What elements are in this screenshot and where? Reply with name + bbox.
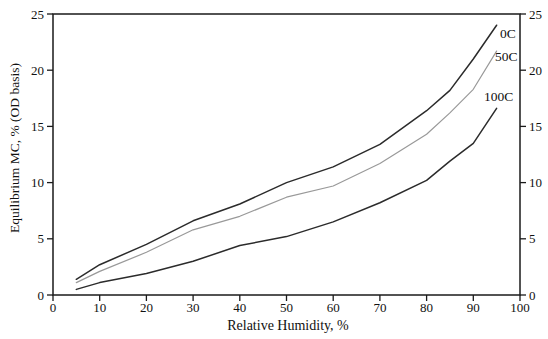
x-tick-label: 30 (187, 300, 200, 315)
x-tick-label: 70 (373, 300, 386, 315)
x-axis-title: Relative Humidity, % (227, 318, 349, 334)
y-tick-label-right: 5 (529, 231, 536, 246)
series-label-0c: 0C (500, 26, 516, 42)
emc-rh-chart: 0102030405060708090100005510101515202025… (0, 0, 548, 339)
series-label-50c: 50C (495, 49, 518, 65)
x-tick-label: 100 (510, 300, 530, 315)
x-tick-label: 20 (140, 300, 153, 315)
x-tick-label: 10 (93, 300, 106, 315)
curve-0c (76, 25, 496, 279)
y-tick-label-right: 0 (529, 288, 536, 303)
series-label-100c: 100C (484, 89, 513, 105)
x-tick-label: 90 (467, 300, 480, 315)
chart-canvas: 0102030405060708090100005510101515202025… (0, 0, 548, 339)
x-tick-label: 40 (233, 300, 246, 315)
y-tick-label-left: 5 (38, 231, 45, 246)
plot-border (53, 14, 520, 295)
y-tick-label-right: 10 (529, 175, 542, 190)
y-axis-title: Equilibrium MC, % (OD basis) (7, 63, 23, 233)
x-tick-label: 50 (280, 300, 293, 315)
x-tick-label: 0 (50, 300, 57, 315)
y-tick-label-left: 10 (31, 175, 44, 190)
y-tick-label-left: 15 (31, 119, 44, 134)
x-tick-label: 60 (327, 300, 340, 315)
y-tick-label-right: 15 (529, 119, 542, 134)
y-tick-label-left: 25 (31, 7, 44, 22)
y-tick-label-right: 25 (529, 7, 542, 22)
y-tick-label-left: 0 (38, 288, 45, 303)
y-tick-label-right: 20 (529, 63, 542, 78)
y-tick-label-left: 20 (31, 63, 44, 78)
curve-100c (76, 108, 496, 289)
x-tick-label: 80 (420, 300, 433, 315)
